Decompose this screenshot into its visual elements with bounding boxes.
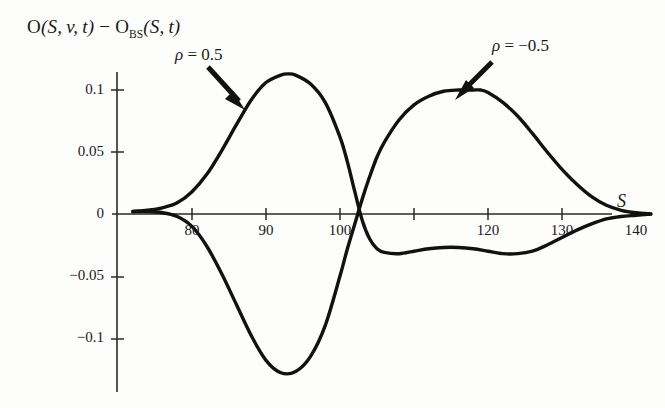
x-tick-label-140: 140	[611, 222, 661, 239]
x-axis-label: S	[617, 192, 626, 210]
figure-container: O(S, v, t) − OBS(S, t) ρ = 0.5 ρ = −0.5 …	[0, 0, 665, 408]
plot-canvas	[0, 0, 665, 408]
rho-value-negative: −0.5	[518, 36, 549, 55]
x-tick-label-100: 100	[315, 222, 365, 239]
y-tick-label-neg0_1: −0.1	[22, 329, 104, 346]
annotation-rho-positive: ρ = 0.5	[175, 46, 223, 63]
formula-t2: t	[168, 16, 173, 37]
x-tick-label-130: 130	[537, 222, 587, 239]
formula-t1: t	[82, 16, 87, 37]
rho-equals-negative: =	[500, 36, 518, 55]
x-tick-label-120: 120	[463, 222, 513, 239]
annotation-rho-negative: ρ = −0.5	[492, 37, 549, 54]
y-tick-label-0: 0	[22, 205, 104, 222]
formula-S2: S	[150, 16, 160, 37]
y-tick-label-0_05: 0.05	[22, 143, 104, 160]
arrow-to-positive-curve	[208, 67, 245, 110]
formula-O2: O	[115, 16, 129, 37]
rho-symbol-negative: ρ	[492, 36, 500, 55]
rho-equals-positive: =	[183, 45, 201, 64]
y-tick-label-neg0_05: −0.05	[22, 267, 104, 284]
formula-O1: O	[27, 16, 41, 37]
formula-subscript-bs: BS	[129, 28, 143, 40]
axis-title-formula: O(S, v, t) − OBS(S, t)	[27, 17, 180, 40]
arrow-to-negative-curve	[455, 62, 492, 100]
formula-minus: −	[99, 16, 110, 37]
formula-S1: S	[47, 16, 57, 37]
rho-symbol-positive: ρ	[175, 45, 183, 64]
x-tick-label-90: 90	[241, 222, 291, 239]
rho-value-positive: 0.5	[201, 45, 222, 64]
y-tick-label-0_1: 0.1	[22, 81, 104, 98]
formula-v: v	[66, 16, 73, 37]
x-tick-label-80: 80	[167, 222, 217, 239]
